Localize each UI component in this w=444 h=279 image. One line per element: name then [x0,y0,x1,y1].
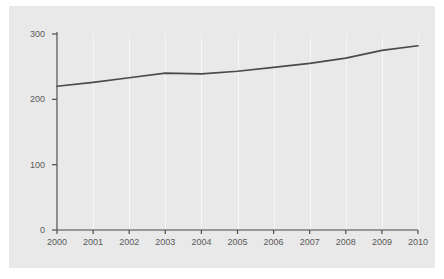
x-tick-label: 2007 [290,237,330,247]
axis-lines [52,32,418,234]
x-tick-label: 2008 [326,237,366,247]
x-tick-label: 2003 [145,237,185,247]
y-tick-label: 100 [15,160,45,170]
x-tick-label: 2002 [109,237,149,247]
y-tick-label: 200 [15,94,45,104]
x-tick-label: 2010 [398,237,438,247]
line-series [57,46,418,87]
x-tick-label: 2000 [37,237,77,247]
x-tick-label: 2005 [218,237,258,247]
y-tick-label: 300 [15,29,45,39]
series-line [57,46,418,87]
x-tick-label: 2006 [254,237,294,247]
chart-figure: 0100200300200020012002200320042005200620… [0,0,444,279]
y-tick-label: 0 [15,225,45,235]
x-tick-label: 2001 [73,237,113,247]
x-tick-label: 2004 [181,237,221,247]
x-tick-label: 2009 [362,237,402,247]
